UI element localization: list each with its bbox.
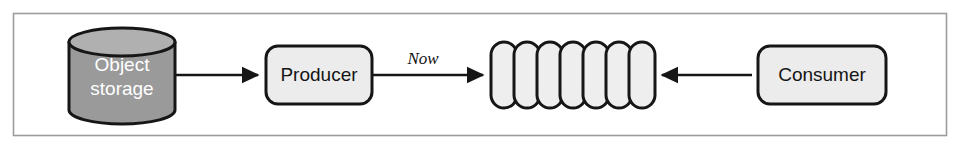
- edge-label-now: Now: [406, 49, 439, 68]
- consumer-label: Consumer: [778, 64, 866, 85]
- node-object-storage: Object storage: [69, 28, 175, 124]
- node-consumer: Consumer: [758, 46, 886, 104]
- diagram-figure: Object storage Producer Now: [0, 0, 961, 149]
- node-producer: Producer: [266, 46, 372, 104]
- diagram-canvas: Object storage Producer Now: [0, 0, 961, 149]
- object-storage-label-line2: storage: [90, 78, 153, 99]
- cylinder-top: [69, 28, 175, 56]
- producer-label: Producer: [280, 64, 358, 85]
- node-queue: [491, 42, 655, 108]
- queue-segment: [629, 42, 655, 108]
- object-storage-label-line1: Object: [95, 54, 151, 75]
